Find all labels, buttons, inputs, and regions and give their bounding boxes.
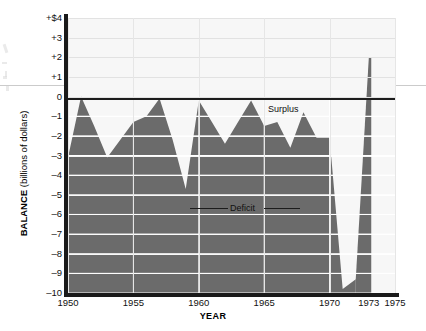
y-tick-label: +1 [28,72,62,82]
gridline-horizontal [68,18,395,19]
x-tick-label: 1955 [113,297,153,308]
gridline-horizontal [68,77,395,78]
x-tick-label: 1975 [375,297,415,308]
plot-area: Surplus Deficit [68,18,395,293]
y-tick-label: +$4 [28,13,62,23]
x-tick-label: 1965 [244,297,284,308]
x-axis-title: YEAR [0,311,426,321]
gridline-vertical [199,18,200,293]
gridline-horizontal [68,57,395,58]
scan-artifact [3,44,9,53]
scan-artifact [6,86,9,91]
gridline-horizontal [68,234,395,235]
y-tick-label: –5 [28,190,62,200]
gridline-vertical [330,18,331,293]
gridline-vertical [264,18,265,293]
y-tick-label: –6 [28,209,62,219]
gridline-horizontal [68,116,395,117]
y-tick-label: –1 [28,111,62,121]
y-tick-label: –7 [28,229,62,239]
y-tick-label: –2 [28,131,62,141]
y-tick-label: –9 [28,268,62,278]
y-tick-label: –3 [28,151,62,161]
y-axis-tick-labels: +$4+3+2+10–1–2–3–4–5–6–7–8–9–10 [22,0,62,331]
gridline-horizontal [68,136,395,137]
x-tick-label: 1970 [310,297,350,308]
annotation-deficit: Deficit [230,203,255,213]
gridline-horizontal [68,214,395,215]
gridline-horizontal [68,175,395,176]
x-tick-label: 1950 [48,297,88,308]
y-tick-label: +2 [28,52,62,62]
scan-artifact [3,76,7,79]
deficit-leader-line [264,208,300,209]
gridline-vertical [68,18,69,293]
deficit-leader-line [190,208,228,209]
gridline-horizontal [68,195,395,196]
gridline-horizontal [68,273,395,274]
gridline-horizontal [68,156,395,157]
zero-baseline [68,98,395,100]
gridline-horizontal [68,38,395,39]
x-tick-label: 1960 [179,297,219,308]
annotation-surplus: Surplus [268,104,299,114]
y-tick-label: –8 [28,249,62,259]
gridline-horizontal [68,254,395,255]
scan-artifact [2,62,7,64]
y-tick-label: –4 [28,170,62,180]
y-tick-label: +3 [28,33,62,43]
gridline-vertical [133,18,134,293]
y-tick-label: 0 [28,92,62,102]
chart-figure: BALANCE (billions of dollars) +$4+3+2+10… [0,0,426,331]
y-axis-line [64,14,68,297]
gridline-vertical [395,18,396,293]
